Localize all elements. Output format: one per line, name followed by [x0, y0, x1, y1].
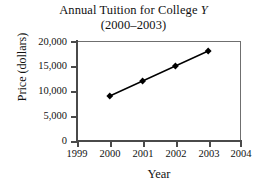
chart-title: Annual Tuition for College Y: [0, 3, 267, 18]
y-tick-20000: [71, 41, 77, 43]
y-tick-label-15000: 15,000: [13, 60, 67, 71]
chart-subtitle: (2000–2003): [0, 18, 267, 33]
y-tick-label-5000: 5,000: [13, 110, 67, 121]
chart-page: Annual Tuition for College Y (2000–2003)…: [0, 0, 267, 189]
x-axis-line: [76, 140, 242, 142]
x-tick-label-2004: 2004: [219, 148, 263, 160]
y-tick-5000: [71, 116, 77, 118]
x-tick-2002: [176, 142, 178, 147]
y-tick-10000: [71, 91, 77, 93]
x-tick-1999: [77, 142, 79, 147]
plot-area: [77, 41, 241, 141]
x-tick-2001: [143, 142, 145, 147]
y-tick-15000: [71, 66, 77, 68]
chart-title-variable: Y: [201, 3, 208, 17]
y-tick-label-20000: 20,000: [13, 36, 67, 47]
x-tick-2000: [110, 142, 112, 147]
y-tick-label-10000: 10,000: [13, 85, 67, 96]
chart-title-text: Annual Tuition for College: [59, 3, 201, 17]
y-tick-label-0: 0: [13, 135, 67, 146]
x-axis-label: Year: [77, 167, 241, 182]
x-tick-2003: [209, 142, 211, 147]
x-tick-2004: [240, 142, 242, 147]
